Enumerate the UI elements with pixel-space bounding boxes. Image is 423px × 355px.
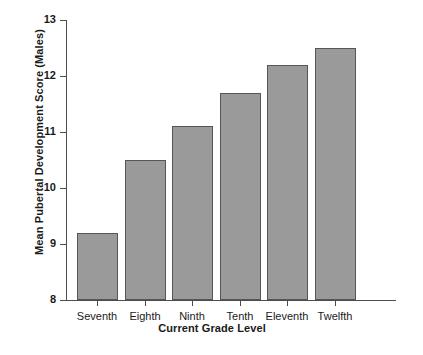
bar-eighth [125,160,166,300]
y-axis-title: Mean Pubertal Development Score (Males) [26,0,52,292]
y-axis-tick-12: 12 [60,76,66,77]
bar-chart: Mean Pubertal Development Score (Males) … [0,0,423,355]
y-axis-tick-label-12: 12 [44,69,56,82]
x-axis-label-seventh: Seventh [77,309,117,323]
plot-area: 13 12 11 10 9 8 Seventh Eight [66,20,396,301]
x-axis-label-eighth: Eighth [129,309,160,323]
bar-twelfth [315,48,356,300]
y-axis-tick-label-10: 10 [44,181,56,194]
bar-tenth [220,93,261,300]
y-axis-tick-label-11: 11 [44,125,56,138]
y-axis-tick-9: 9 [60,244,66,245]
x-axis-tick-3 [240,301,241,306]
bar-eleventh [267,65,308,300]
x-axis-tick-2 [192,301,193,306]
y-axis-tick-13: 13 [60,20,66,21]
bar-seventh [77,233,118,300]
x-axis-tick-5 [335,301,336,306]
y-axis-tick-11: 11 [60,132,66,133]
x-axis-tick-0 [97,301,98,306]
y-axis-tick-label-9: 9 [50,237,56,250]
y-axis-tick-10: 10 [60,188,66,189]
y-axis-line [66,20,67,301]
x-axis-tick-1 [145,301,146,306]
y-axis-tick-8: 8 [60,300,66,301]
x-axis-label-ninth: Ninth [179,309,205,323]
x-axis-label-tenth: Tenth [227,309,254,323]
x-axis-label-twelfth: Twelfth [318,309,353,323]
x-axis-tick-4 [287,301,288,306]
bar-ninth [172,126,213,300]
y-axis-tick-label-13: 13 [44,13,56,26]
x-axis-label-eleventh: Eleventh [266,309,309,323]
x-axis-line [66,300,396,301]
x-axis-title: Current Grade Level [66,322,358,334]
y-axis-tick-label-8: 8 [50,293,56,306]
